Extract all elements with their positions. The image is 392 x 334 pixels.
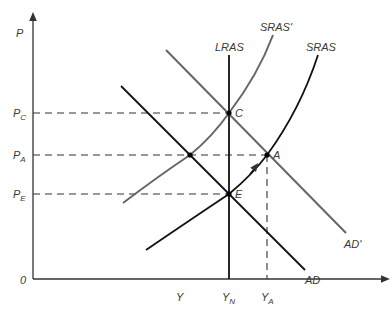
sras-prime-label: SRAS' (260, 21, 293, 33)
sras-prime-curve (123, 35, 273, 203)
pc-label: PC (13, 107, 26, 122)
point-c-label: C (235, 107, 243, 119)
point-a-label: A (272, 149, 280, 161)
x-axis-label: Y (176, 291, 184, 303)
pa-label: PA (13, 149, 26, 164)
sras-curve (146, 55, 318, 250)
ad-as-diagram: P 0 Y PC PA PE YN YA LRAS SRAS' SRAS AD'… (0, 0, 392, 334)
ad-prime-label: AD' (343, 238, 362, 250)
yn-label: YN (222, 291, 235, 306)
point-e (226, 191, 231, 196)
ad-curve (121, 86, 305, 270)
ad-prime-curve (166, 50, 346, 233)
point-ad-sras-prime (187, 152, 192, 157)
pe-label: PE (13, 188, 26, 203)
point-c (226, 110, 231, 115)
ya-label: YA (261, 291, 274, 306)
point-e-label: E (235, 188, 243, 200)
lras-label: LRAS (215, 41, 244, 53)
sras-label: SRAS (306, 41, 337, 53)
point-a (264, 152, 269, 157)
y-axis-label: P (16, 27, 24, 39)
ad-label: AD (304, 274, 320, 286)
origin-label: 0 (20, 274, 27, 286)
